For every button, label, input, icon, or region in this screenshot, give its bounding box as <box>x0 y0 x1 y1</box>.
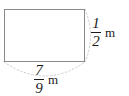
height-numerator: 1 <box>91 16 101 32</box>
height-dimension-label: 1 2 m <box>91 16 115 50</box>
height-denominator: 2 <box>91 33 101 49</box>
arc-right <box>85 9 91 62</box>
geometry-figure: 1 2 m 7 9 m <box>0 0 129 96</box>
height-unit: m <box>105 25 115 41</box>
height-fraction: 1 2 <box>91 16 101 50</box>
width-unit: m <box>48 72 58 88</box>
width-denominator: 9 <box>34 80 44 96</box>
width-dimension-label: 7 9 m <box>34 63 58 96</box>
width-numerator: 7 <box>34 63 44 79</box>
width-fraction: 7 9 <box>34 63 44 96</box>
rectangle-shape <box>4 9 85 62</box>
